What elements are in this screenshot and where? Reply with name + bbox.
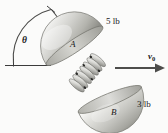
spring-coil-icon [67,52,107,94]
upper-tick-mark [47,6,55,13]
label-body-b: B [111,108,117,117]
label-velocity: v0 [148,52,155,62]
velocity-arrow-head [155,64,165,73]
figure-canvas [0,0,168,133]
label-body-a: A [70,40,76,49]
label-weight-top: 5 lb [106,17,120,26]
label-velocity-subscript: 0 [152,55,155,62]
right-arrow-icon [115,64,165,73]
label-angle-theta: θ [22,36,27,46]
physics-figure: 5 lb 3 lb A B θ v0 [0,0,168,133]
label-weight-bottom: 3 lb [137,100,151,109]
